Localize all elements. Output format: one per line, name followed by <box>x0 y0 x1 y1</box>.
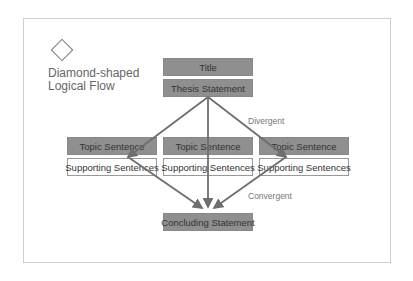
convergent-arrow-right <box>214 157 286 208</box>
convergent-arrow-left <box>128 157 202 208</box>
flow-arrows <box>0 0 413 281</box>
divergent-arrow-right <box>208 97 286 157</box>
divergent-arrow-left <box>128 97 208 157</box>
